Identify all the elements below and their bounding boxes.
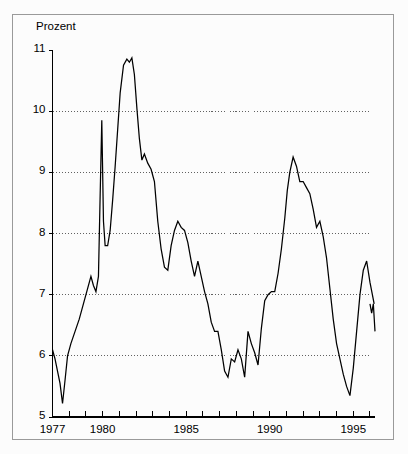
- x-tick-label: 1980: [83, 423, 123, 435]
- line-chart-plot: [0, 0, 408, 454]
- x-tick-label: 1995: [333, 423, 373, 435]
- x-tick-label: 1985: [166, 423, 206, 435]
- y-tick-label: 11: [12, 42, 46, 54]
- y-tick-label: 9: [12, 164, 46, 176]
- y-tick-label: 6: [12, 348, 46, 360]
- y-tick-label: 8: [12, 226, 46, 238]
- y-tick-label: 7: [12, 287, 46, 299]
- chart-figure: Prozent 111098765 19771980198519901995: [0, 0, 408, 454]
- x-tick-marks-group: [53, 411, 370, 417]
- data-line: [53, 58, 375, 404]
- data-series-group: [53, 58, 376, 404]
- x-tick-label: 1990: [250, 423, 290, 435]
- data-line: [370, 304, 375, 332]
- y-tick-label: 5: [12, 409, 46, 421]
- y-tick-label: 10: [12, 103, 46, 115]
- x-tick-label: 1977: [33, 423, 73, 435]
